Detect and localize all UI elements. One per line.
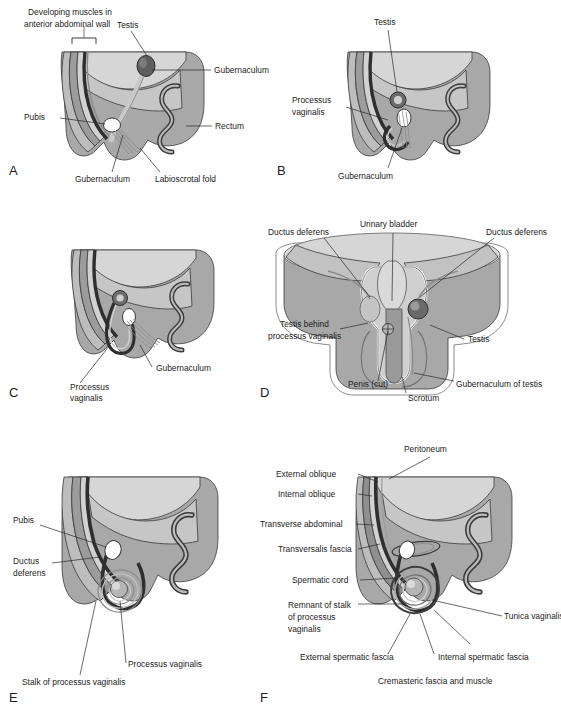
label-developing-muscles: Developing muscles in — [28, 7, 112, 17]
label-processus-vaginalis: Processus — [70, 382, 109, 392]
label-tunica-vaginalis: Tunica vaginalis — [504, 611, 561, 621]
panel-b: Testis Processus vaginalis Gubernaculum — [270, 0, 561, 195]
label-remnant-of-stalk: Remnant of stalk — [288, 600, 352, 610]
panel-d-anatomy — [276, 233, 508, 395]
label-stalk-of-processus-vaginalis: Stalk of processus vaginalis — [22, 677, 125, 687]
label-ductus-deferens-left: Ductus deferens — [268, 227, 329, 237]
label-processus-vaginalis: Processus vaginalis — [128, 659, 202, 669]
label-internal-oblique: Internal oblique — [278, 489, 336, 499]
testis-highlight — [112, 582, 120, 590]
label-testis-behind-2: processus vaginalis — [268, 331, 341, 341]
label-processus-vaginalis-2: vaginalis — [70, 393, 103, 403]
label-spermatic-cord: Spermatic cord — [292, 575, 349, 585]
label-external-spermatic-fascia: External spermatic fascia — [300, 652, 394, 662]
panel-f: Peritoneum External oblique Internal obl… — [258, 432, 561, 712]
label-developing-muscles-2: anterior abdominal wall — [24, 19, 110, 29]
testis-highlight — [407, 580, 415, 588]
panel-a-anatomy — [61, 52, 204, 160]
label-peritoneum: Peritoneum — [404, 444, 447, 454]
label-pubis: Pubis — [24, 112, 45, 122]
panel-letter-e: E — [9, 690, 18, 705]
label-remnant-of-stalk-2: of processus — [288, 612, 335, 622]
label-processus-vaginalis: Processus — [292, 95, 331, 105]
label-testis: Testis — [468, 334, 489, 344]
penis-organ — [386, 309, 402, 383]
panel-e-anatomy — [62, 477, 218, 618]
label-ductus-deferens: Ductus — [13, 556, 39, 566]
label-transversalis-fascia: Transversalis fascia — [278, 544, 352, 554]
label-rectum: Rectum — [215, 121, 244, 131]
label-labioscrotal-fold: Labioscrotal fold — [155, 174, 216, 184]
panel-letter-b: B — [277, 163, 286, 178]
panel-e: Pubis Ductus deferens Processus vaginali… — [0, 445, 275, 710]
panel-letter-a: A — [9, 163, 18, 178]
label-external-oblique: External oblique — [276, 469, 336, 479]
label-gubernaculum: Gubernaculum — [156, 363, 211, 373]
label-testis-behind: Testis behind — [280, 319, 329, 329]
testis-organ — [111, 581, 128, 598]
label-gubernaculum-of-testis: Gubernaculum of testis — [456, 379, 542, 389]
label-gubernaculum-lower: Gubernaculum — [75, 174, 130, 184]
label-cremasteric-fascia: Cremasteric fascia and muscle — [378, 676, 493, 686]
label-scrotum: Scrotum — [408, 393, 439, 403]
testis-organ — [405, 578, 423, 596]
panel-letter-f: F — [260, 690, 268, 705]
label-gubernaculum: Gubernaculum — [338, 171, 393, 181]
label-internal-spermatic-fascia: Internal spermatic fascia — [438, 652, 529, 662]
label-pubis: Pubis — [13, 515, 34, 525]
label-processus-vaginalis-2: vaginalis — [292, 107, 325, 117]
label-urinary-bladder: Urinary bladder — [360, 219, 417, 229]
testis-core — [394, 96, 402, 104]
panel-letter-c: C — [9, 385, 19, 400]
label-ductus-deferens-2: deferens — [13, 568, 46, 578]
label-ductus-deferens-right: Ductus deferens — [486, 227, 547, 237]
panel-c: Gubernaculum Processus vaginalis — [0, 205, 275, 405]
panel-c-anatomy — [71, 250, 214, 358]
label-testis: Testis — [117, 20, 138, 30]
figure-testis-descent: Developing muscles in anterior abdominal… — [0, 0, 561, 720]
label-testis: Testis — [374, 17, 395, 27]
testis-highlight — [139, 58, 147, 68]
label-remnant-of-stalk-3: vaginalis — [288, 624, 321, 634]
label-gubernaculum-upper: Gubernaculum — [214, 65, 269, 75]
label-transverse-abdominal: Transverse abdominal — [260, 519, 343, 529]
testis-core — [116, 294, 123, 301]
pubis-bone — [104, 118, 121, 132]
label-penis-cut: Penis (cut) — [348, 379, 388, 389]
panel-letter-d: D — [260, 385, 270, 400]
right-testis-highlight — [411, 302, 420, 311]
panel-d: Urinary bladder Ductus deferens Ductus d… — [258, 205, 561, 405]
left-testis-behind — [360, 296, 380, 322]
panel-b-anatomy — [347, 52, 490, 160]
panel-a: Developing muscles in anterior abdominal… — [0, 0, 275, 195]
panel-f-anatomy — [356, 477, 512, 619]
